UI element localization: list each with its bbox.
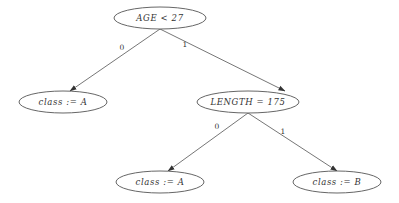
edge-right-to-right-right: 1 <box>248 113 337 171</box>
node-right-right-leaf: class := B <box>293 171 381 193</box>
edge-label-1: 1 <box>183 40 188 49</box>
node-label-right: LENGTH = 175 <box>209 97 285 107</box>
node-label-left: class := A <box>39 97 88 107</box>
edge-right-to-right-left: 0 <box>168 113 248 171</box>
decision-tree-diagram: 0 1 0 1 AGE < 27 class := A LENGTH = 175… <box>0 0 399 203</box>
node-right-split: LENGTH = 175 <box>197 91 299 113</box>
node-label-right-left: class := A <box>136 177 185 187</box>
node-right-left-leaf: class := A <box>116 171 204 193</box>
edge-root-to-right: 1 <box>160 29 285 91</box>
node-label-right-right: class := B <box>313 177 362 187</box>
edge-label-0: 0 <box>215 122 220 131</box>
edge-root-to-left: 0 <box>70 29 160 91</box>
node-root: AGE < 27 <box>114 7 206 29</box>
edge-label-1: 1 <box>281 127 286 136</box>
node-label-root: AGE < 27 <box>135 13 183 23</box>
node-left-leaf: class := A <box>19 91 107 113</box>
edge-label-0: 0 <box>120 43 125 52</box>
